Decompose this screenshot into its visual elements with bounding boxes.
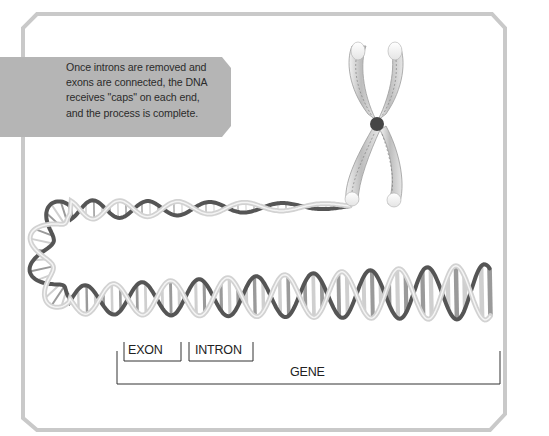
base-pair-rung	[288, 276, 289, 316]
chromosome-arm-lower-left	[346, 126, 380, 202]
base-pair-rung	[145, 283, 146, 314]
base-pair-rung	[422, 271, 423, 315]
gene-label: GENE	[290, 365, 325, 379]
base-pair-rung	[204, 282, 205, 313]
callout-text: Once introns are removed and exons are c…	[66, 60, 234, 121]
base-pair-rung	[456, 266, 457, 320]
telomere-cap	[388, 42, 402, 60]
callout-line: exons are connected, the DNA	[66, 75, 234, 90]
callout-line: Once introns are removed and	[66, 60, 234, 75]
base-pair-rung	[254, 277, 255, 317]
base-pair-rung	[280, 278, 281, 314]
telomere-cap	[345, 192, 359, 206]
callout-line: and the process is complete.	[66, 106, 234, 121]
telomere-cap	[387, 193, 401, 207]
centromere	[370, 117, 384, 131]
base-pair-rung	[87, 285, 88, 314]
exon-label: EXON	[128, 343, 163, 357]
base-pair-rung	[338, 273, 339, 316]
base-pair-rung	[397, 269, 398, 318]
base-pair-rung	[313, 273, 314, 317]
base-pair-rung	[372, 271, 373, 318]
base-pair-rung	[170, 281, 171, 316]
dna-double-helix	[30, 200, 491, 320]
base-pair-rung	[112, 284, 113, 314]
base-pair-rung	[431, 269, 432, 317]
base-pair-rung	[229, 278, 230, 316]
base-pair-rung	[347, 275, 348, 314]
base-pair-rung	[30, 266, 53, 271]
base-pair-rung	[490, 268, 491, 315]
intron-label: INTRON	[195, 343, 242, 357]
callout-line: receives "caps" on each end,	[66, 90, 234, 105]
telomere-cap	[351, 42, 365, 60]
chromosome-arm-lower-right	[380, 126, 402, 204]
base-pair-rung	[481, 266, 482, 318]
chromosome	[345, 42, 403, 207]
base-pair-rung	[196, 281, 197, 315]
